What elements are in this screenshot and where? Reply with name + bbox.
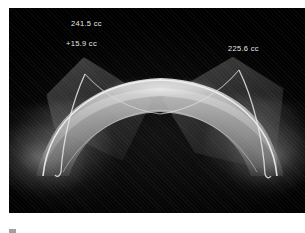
- segmentation-contour: [33, 60, 287, 178]
- caption-marker-icon: [9, 229, 16, 233]
- figure-caption: [9, 227, 299, 233]
- volume-delta-label: +15.9 cc: [66, 39, 97, 48]
- volume-total-label: 241.5 cc: [71, 19, 102, 28]
- scan-image: 241.5 cc +15.9 cc 225.6 cc: [9, 8, 305, 213]
- figure-page: 241.5 cc +15.9 cc 225.6 cc: [0, 0, 305, 233]
- volume-second-label: 225.6 cc: [228, 44, 259, 53]
